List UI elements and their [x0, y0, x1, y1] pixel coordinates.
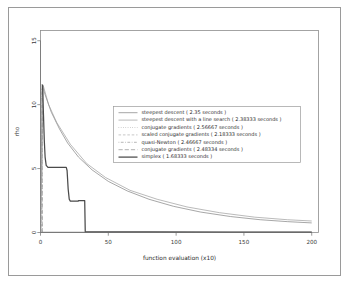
y-tick-label: 10 [31, 101, 37, 109]
x-tick-label: 150 [239, 239, 250, 245]
y-tick-label: 15 [31, 37, 37, 45]
legend-label[interactable]: conjugate gradients ( 2.48334 seconds ) [142, 146, 243, 153]
y-tick-label: 5 [31, 166, 37, 170]
legend-label[interactable]: scaled conjugate gradients ( 2.18333 sec… [142, 131, 261, 138]
legend-label[interactable]: steepest descent with a line search ( 2.… [142, 116, 282, 123]
legend-label[interactable]: steepest descent ( 2.35 seconds ) [142, 109, 227, 116]
x-tick-label: 0 [39, 239, 43, 245]
x-tick-label: 100 [171, 239, 182, 245]
y-axis-title: rho [14, 126, 20, 136]
legend-label[interactable]: conjugate gradients ( 2.56667 seconds ) [142, 124, 243, 131]
x-axis-title: function evaluation (x10) [143, 255, 216, 261]
legend-group[interactable]: steepest descent ( 2.35 seconds )steepes… [114, 107, 301, 163]
x-tick-label: 50 [105, 239, 113, 245]
figure-canvas: 050100150200051015function evaluation (x… [0, 0, 349, 284]
y-tick-label: 0 [31, 230, 37, 234]
x-tick-label: 200 [306, 239, 317, 245]
legend-label[interactable]: simplex ( 1.68333 seconds ) [142, 153, 213, 160]
legend-label[interactable]: quasi-Newton ( 2.46667 seconds ) [142, 139, 228, 146]
chart-plot: 050100150200051015function evaluation (x… [0, 0, 349, 284]
